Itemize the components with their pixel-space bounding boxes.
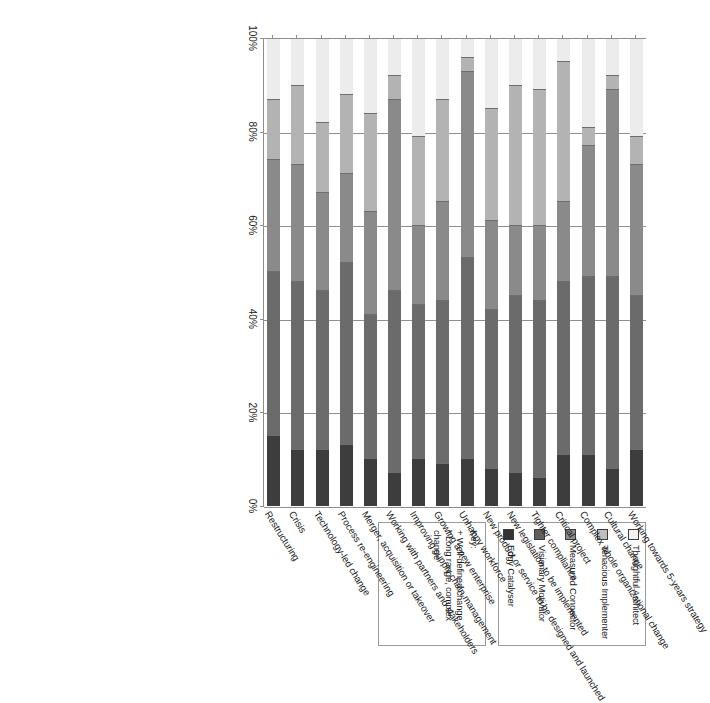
legend-item: Measured Connector	[566, 529, 579, 639]
legend-item: Tenacious Implementer	[597, 529, 610, 639]
category-axis-tick	[418, 35, 419, 39]
value-axis-tick	[260, 38, 264, 39]
legend-label-thoughtful-architect: Thoughtful Architect	[631, 545, 642, 625]
bar-segment	[412, 226, 425, 305]
bar-segment	[630, 165, 643, 296]
bar-segment	[267, 436, 280, 506]
bar-segment	[461, 459, 474, 506]
bar-segment	[582, 455, 595, 506]
bar-segment	[582, 277, 595, 454]
legend-swatch-measured-connector	[566, 529, 577, 540]
legend-swatch-tenacious-implementer	[597, 529, 608, 540]
legend-label-measured-connector: Measured Connector	[568, 545, 579, 630]
bar-segment	[557, 62, 570, 202]
legend-label-edgy-catalyser: Edgy Catalyser	[506, 545, 517, 607]
bar-segment	[364, 459, 377, 506]
bar-segment	[509, 473, 522, 506]
bar-row	[364, 39, 377, 506]
key-title: Key:	[469, 530, 481, 638]
bar-segment	[630, 450, 643, 506]
bar-row	[388, 39, 401, 506]
bar-segment	[316, 193, 329, 291]
category-axis-tick	[370, 35, 371, 39]
category-label: Crisis	[287, 509, 309, 535]
category-axis-tick	[515, 35, 516, 39]
bar-segment	[437, 301, 450, 464]
value-axis-label: 20%	[247, 402, 258, 422]
bar-segment	[316, 291, 329, 450]
bar-segment	[485, 221, 498, 310]
value-axis-tick	[260, 506, 264, 507]
bar-row	[340, 39, 353, 506]
category-axis-tick	[491, 35, 492, 39]
bar-row	[557, 39, 570, 506]
legend-swatch-visionary-motivator	[534, 529, 545, 540]
bar-segment	[630, 137, 643, 165]
value-axis-label: 100%	[247, 25, 258, 51]
bar-series-container	[264, 39, 646, 506]
legend-swatch-thoughtful-architect	[628, 529, 639, 540]
category-axis-tick	[322, 35, 323, 39]
bar-row	[267, 39, 280, 506]
bar-segment	[630, 296, 643, 450]
bar-segment	[412, 137, 425, 226]
value-axis-tick	[260, 319, 264, 320]
bar-segment	[388, 39, 401, 76]
bar-segment	[533, 478, 546, 506]
plot-area	[264, 38, 646, 506]
bar-row	[509, 39, 522, 506]
bar-segment	[461, 39, 474, 58]
bar-segment	[461, 72, 474, 259]
legend-label-tenacious-implementer: Tenacious Implementer	[599, 545, 610, 639]
value-axis-tick	[260, 132, 264, 133]
bar-segment	[388, 100, 401, 291]
value-axis-tick	[260, 225, 264, 226]
bar-row	[291, 39, 304, 506]
value-axis-tick	[260, 412, 264, 413]
category-axis-tick	[442, 35, 443, 39]
stacked-bar-chart: Thoughtful Architect Tenacious Implement…	[238, 0, 658, 658]
category-axis-tick	[467, 35, 468, 39]
bar-segment	[437, 464, 450, 506]
bar-segment	[485, 109, 498, 221]
bar-segment	[291, 282, 304, 450]
bar-segment	[606, 277, 619, 468]
bar-segment	[291, 86, 304, 165]
bar-segment	[267, 100, 280, 161]
category-axis-tick	[539, 35, 540, 39]
bar-segment	[437, 202, 450, 300]
bar-segment	[606, 76, 619, 90]
value-axis: 100%80%60%40%20%0%	[263, 38, 264, 506]
bar-segment	[267, 272, 280, 435]
chart-legend: Thoughtful Architect Tenacious Implement…	[498, 522, 646, 646]
category-axis-tick	[273, 35, 274, 39]
category-axis-tick	[563, 35, 564, 39]
bar-segment	[340, 95, 353, 174]
category-axis-tick	[588, 35, 589, 39]
bar-segment	[630, 39, 643, 137]
bar-segment	[316, 123, 329, 193]
bar-segment	[557, 455, 570, 506]
value-axis-label: 60%	[247, 215, 258, 235]
rotated-figure-wrapper: Thoughtful Architect Tenacious Implement…	[238, 0, 658, 658]
legend-item: Visionary Motivator	[534, 529, 547, 639]
bar-segment	[291, 39, 304, 86]
bar-row	[316, 39, 329, 506]
value-axis-label: 40%	[247, 309, 258, 329]
bar-segment	[485, 310, 498, 469]
bar-segment	[267, 39, 280, 100]
bar-segment	[364, 212, 377, 315]
bar-segment	[533, 301, 546, 478]
bar-segment	[340, 445, 353, 506]
bar-segment	[557, 282, 570, 455]
bar-segment	[437, 39, 450, 100]
bar-segment	[582, 39, 595, 128]
bar-row	[412, 39, 425, 506]
category-axis-tick	[394, 35, 395, 39]
legend-swatch-edgy-catalyser	[503, 529, 514, 540]
category-label: Restructuring	[263, 509, 302, 563]
bar-segment	[291, 450, 304, 506]
bar-segment	[606, 90, 619, 277]
bar-segment	[316, 39, 329, 123]
bar-segment	[340, 174, 353, 263]
